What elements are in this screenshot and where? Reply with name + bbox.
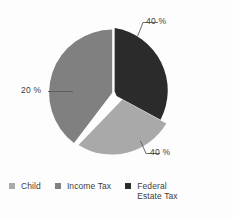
legend-swatch-income-tax-icon bbox=[55, 183, 61, 189]
pie-plot-area: 40 % 20 % 40 % bbox=[0, 0, 233, 172]
legend-swatch-child-icon bbox=[9, 183, 15, 189]
legend-swatch-federal-estate-tax-icon bbox=[125, 183, 131, 189]
chart-legend: Child Income Tax Federal Estate Tax bbox=[0, 181, 233, 218]
pie-chart: 40 % 20 % 40 % Child Income Tax Federal … bbox=[0, 0, 233, 218]
legend-label-child: Child bbox=[21, 181, 41, 191]
pie-label-federal-estate-tax: 40 % bbox=[146, 17, 166, 26]
legend-label-income-tax: Income Tax bbox=[67, 181, 111, 191]
pie-label-child: 40 % bbox=[150, 148, 170, 157]
pie-label-income-tax: 20 % bbox=[21, 86, 41, 95]
legend-item-federal-estate-tax[interactable]: Federal Estate Tax bbox=[125, 181, 193, 201]
legend-label-federal-estate-tax: Federal Estate Tax bbox=[137, 181, 193, 201]
legend-item-child[interactable]: Child bbox=[9, 181, 41, 191]
legend-item-income-tax[interactable]: Income Tax bbox=[55, 181, 111, 191]
